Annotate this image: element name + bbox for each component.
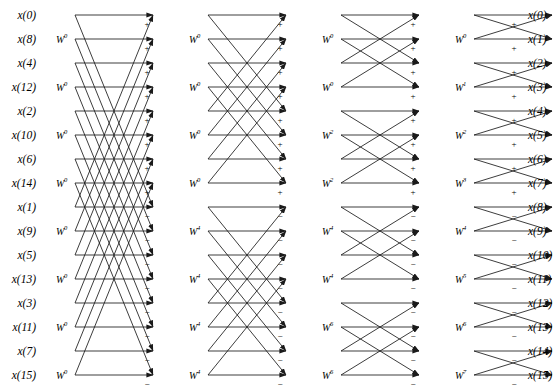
butterfly-sign: + xyxy=(511,91,516,101)
butterfly-sign: + xyxy=(410,43,415,53)
butterfly-sign: − xyxy=(511,259,516,269)
butterfly-sign: − xyxy=(410,283,415,293)
output-label: x(9) xyxy=(527,225,547,238)
twiddle-factor: W0 xyxy=(56,272,68,285)
butterfly-sign: − xyxy=(410,331,415,341)
butterfly-sign: + xyxy=(511,19,516,29)
twiddle-factor: W0 xyxy=(56,320,68,333)
twiddle-factor: W5 xyxy=(455,272,467,285)
twiddle-factor: W7 xyxy=(455,368,467,381)
twiddle-factor: W4 xyxy=(189,224,201,237)
twiddle-factor: W0 xyxy=(56,224,68,237)
twiddle-exponent: 0 xyxy=(64,368,68,375)
butterfly-sign: + xyxy=(511,43,516,53)
twiddle-exponent: 0 xyxy=(197,176,201,183)
output-label: x(7) xyxy=(527,177,547,190)
input-label: x(12) xyxy=(11,81,36,94)
butterfly-sign: + xyxy=(144,139,149,149)
twiddle-factor: W0 xyxy=(56,32,68,45)
twiddle-factor: W4 xyxy=(322,272,334,285)
twiddle-factor: W4 xyxy=(322,224,334,237)
butterfly-sign: − xyxy=(144,355,149,365)
butterfly-sign: − xyxy=(511,211,516,221)
input-label: x(1) xyxy=(16,201,36,214)
twiddle-factor: W4 xyxy=(189,368,201,381)
twiddle-exponent: 6 xyxy=(463,320,467,327)
twiddle-exponent: 2 xyxy=(330,176,334,183)
butterfly-sign: − xyxy=(511,355,516,365)
butterfly-sign: + xyxy=(410,187,415,197)
input-label: x(4) xyxy=(16,57,36,70)
butterfly-sign: + xyxy=(144,187,149,197)
twiddle-factor: W6 xyxy=(455,320,467,333)
input-label: x(2) xyxy=(16,105,36,118)
butterfly-sign: + xyxy=(277,67,282,77)
output-label: x(10) xyxy=(527,249,552,262)
twiddle-factor: W0 xyxy=(322,32,334,45)
twiddle-exponent: 0 xyxy=(64,128,68,135)
twiddle-factor: W4 xyxy=(189,272,201,285)
output-label: x(12) xyxy=(527,297,552,310)
input-label: x(14) xyxy=(11,177,36,190)
twiddle-factor: W0 xyxy=(455,32,467,45)
input-label: x(9) xyxy=(16,225,36,238)
butterfly-sign: + xyxy=(277,187,282,197)
output-label: x(1) xyxy=(527,33,547,46)
twiddle-factor: W0 xyxy=(56,128,68,141)
butterfly-sign: − xyxy=(144,379,149,389)
twiddle-factor: W0 xyxy=(56,368,68,381)
twiddle-exponent: 7 xyxy=(463,368,467,375)
butterfly-sign: − xyxy=(511,307,516,317)
butterfly-sign: − xyxy=(410,379,415,389)
butterfly-sign: + xyxy=(277,43,282,53)
butterfly-sign: − xyxy=(410,235,415,245)
twiddle-exponent: 4 xyxy=(463,224,467,231)
input-labels: x(0)x(8)x(4)x(12)x(2)x(10)x(6)x(14)x(1)x… xyxy=(11,9,36,382)
twiddle-factor: W4 xyxy=(455,224,467,237)
butterfly-sign: − xyxy=(410,211,415,221)
twiddle-exponent: 5 xyxy=(463,272,467,279)
output-label: x(14) xyxy=(527,345,552,358)
butterfly-sign: + xyxy=(277,115,282,125)
output-labels: x(0)x(1)x(2)x(3)x(4)x(5)x(6)x(7)x(8)x(9)… xyxy=(527,9,552,382)
twiddle-exponent: 0 xyxy=(197,80,201,87)
output-label: x(2) xyxy=(527,57,547,70)
input-label: x(0) xyxy=(16,9,36,22)
twiddle-exponent: 0 xyxy=(197,128,201,135)
butterfly-sign: − xyxy=(277,379,282,389)
butterfly-sign: + xyxy=(410,139,415,149)
twiddle-factor: W0 xyxy=(189,32,201,45)
butterfly-sign: − xyxy=(277,211,282,221)
butterfly-sign: − xyxy=(144,307,149,317)
butterfly-sign: − xyxy=(144,259,149,269)
twiddle-factor: W2 xyxy=(322,176,334,189)
butterfly-sign: − xyxy=(277,259,282,269)
twiddle-exponent: 4 xyxy=(197,224,201,231)
twiddle-factor: W2 xyxy=(322,128,334,141)
twiddle-exponent: 0 xyxy=(330,32,334,39)
twiddle-exponent: 0 xyxy=(330,80,334,87)
twiddle-factor: W0 xyxy=(56,80,68,93)
butterfly-sign: − xyxy=(144,331,149,341)
butterfly-sign: − xyxy=(410,355,415,365)
butterfly-sign: + xyxy=(144,67,149,77)
twiddle-exponent: 4 xyxy=(330,272,334,279)
butterfly-sign: − xyxy=(277,331,282,341)
output-label: x(3) xyxy=(527,81,547,94)
butterfly-sign: − xyxy=(144,235,149,245)
twiddle-exponent: 2 xyxy=(463,128,467,135)
butterfly-sign: + xyxy=(277,19,282,29)
twiddle-factor: W4 xyxy=(189,320,201,333)
butterfly-sign: − xyxy=(277,355,282,365)
butterfly-sign: − xyxy=(511,283,516,293)
butterfly-sign: − xyxy=(144,283,149,293)
output-label: x(8) xyxy=(527,201,547,214)
twiddle-exponent: 6 xyxy=(330,320,334,327)
twiddle-exponent: 0 xyxy=(197,32,201,39)
twiddle-factor: W0 xyxy=(189,128,201,141)
twiddle-exponent: 0 xyxy=(64,80,68,87)
twiddle-exponent: 4 xyxy=(197,368,201,375)
input-label: x(11) xyxy=(12,321,37,334)
butterfly-sign: − xyxy=(277,235,282,245)
input-label: x(5) xyxy=(16,249,36,262)
